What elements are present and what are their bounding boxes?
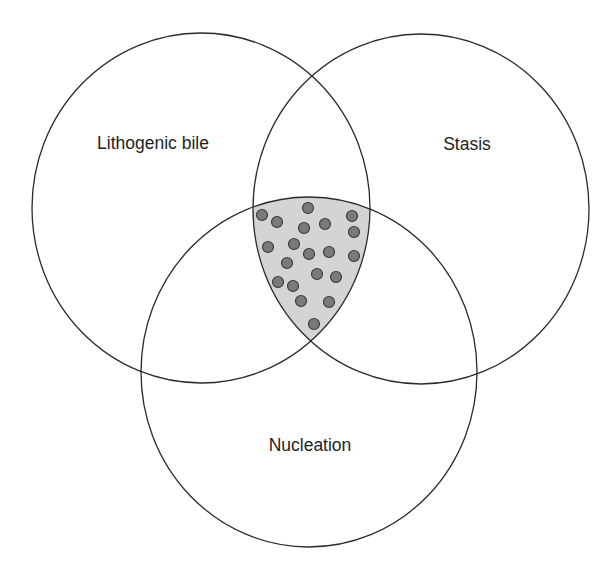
intersection-dot bbox=[299, 223, 310, 234]
intersection-dot bbox=[288, 281, 299, 292]
label-nucleation: Nucleation bbox=[269, 435, 352, 455]
intersection-dot bbox=[282, 258, 293, 269]
intersection-dot bbox=[349, 251, 360, 262]
intersection-dot bbox=[263, 242, 274, 253]
venn-diagram: Lithogenic bile Stasis Nucleation bbox=[0, 0, 612, 572]
intersection-dot bbox=[309, 319, 320, 330]
intersection-dot bbox=[320, 219, 331, 230]
intersection-dot bbox=[272, 217, 283, 228]
label-stasis: Stasis bbox=[443, 134, 491, 154]
intersection-dot bbox=[331, 272, 342, 283]
label-lithogenic-bile: Lithogenic bile bbox=[97, 133, 209, 153]
intersection-dot bbox=[312, 269, 323, 280]
intersection-dot bbox=[304, 249, 315, 260]
intersection-dot bbox=[289, 239, 300, 250]
intersection-dot bbox=[303, 203, 314, 214]
intersection-dot bbox=[257, 210, 268, 221]
intersection-dot bbox=[296, 296, 307, 307]
intersection-dot bbox=[273, 277, 284, 288]
intersection-dot bbox=[324, 297, 335, 308]
intersection-region-outer bbox=[141, 197, 477, 547]
intersection-dot bbox=[324, 247, 335, 258]
intersection-dot bbox=[349, 227, 360, 238]
intersection-dot bbox=[347, 211, 358, 222]
